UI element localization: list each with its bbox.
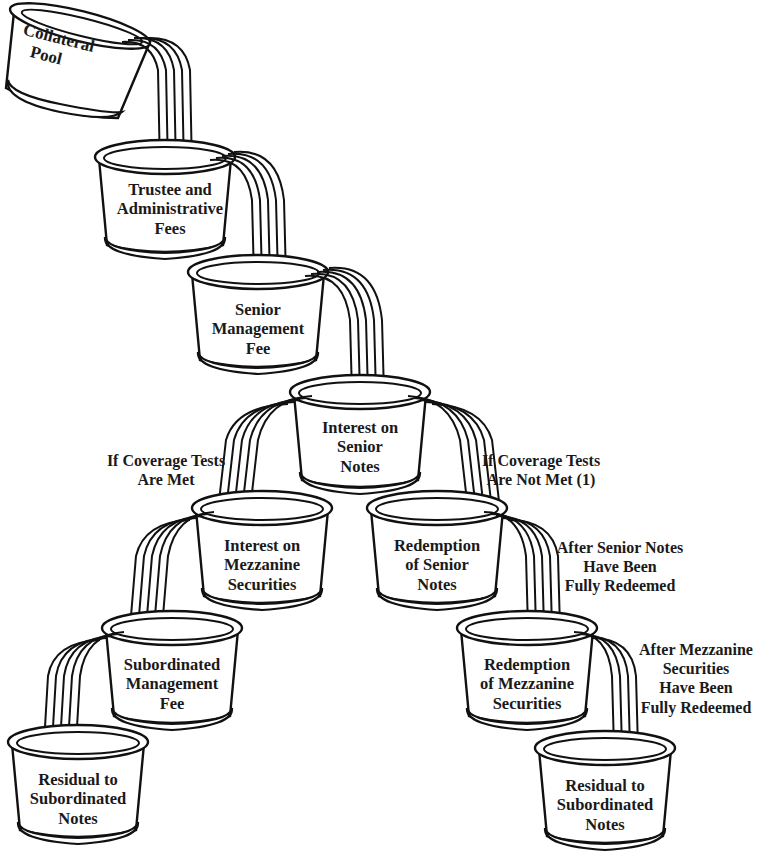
- bucket-label-senior-management-fee: Senior Management Fee: [188, 300, 328, 358]
- cash-flow-waterfall-diagram: Collateral Pool Trustee and Administrati…: [0, 0, 764, 861]
- condition-after-senior-redeemed: After Senior Notes Have Been Fully Redee…: [540, 538, 700, 596]
- condition-after-mezzanine-redeemed: After Mezzanine Securities Have Been Ful…: [628, 640, 764, 717]
- bucket-label-interest-mezzanine: Interest on Mezzanine Securities: [192, 536, 332, 594]
- bucket-label-residual-left: Residual to Subordinated Notes: [8, 770, 148, 828]
- bucket-label-trustee-admin-fees: Trustee and Administrative Fees: [100, 180, 240, 238]
- condition-coverage-not-met: If Coverage Tests Are Not Met (1): [466, 451, 616, 489]
- bucket-label-redemption-senior-notes: Redemption of Senior Notes: [367, 536, 507, 594]
- bucket-label-subordinated-management-fee: Subordinated Management Fee: [102, 655, 242, 713]
- bucket-label-interest-senior-notes: Interest on Senior Notes: [290, 418, 430, 476]
- bucket-label-redemption-mezzanine: Redemption of Mezzanine Securities: [457, 655, 597, 713]
- condition-coverage-met: If Coverage Tests Are Met: [86, 451, 246, 489]
- bucket-label-residual-right: Residual to Subordinated Notes: [535, 776, 675, 834]
